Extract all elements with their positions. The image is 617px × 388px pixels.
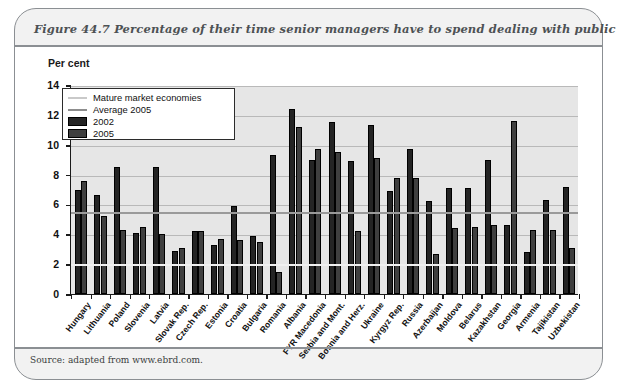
y-axis-tick-mark bbox=[66, 205, 71, 207]
x-axis-tick-mark bbox=[110, 294, 111, 299]
bar-2005 bbox=[198, 231, 204, 294]
figure-title: Figure 44.7 Percentage of their time sen… bbox=[34, 18, 594, 40]
y-axis-tick-mark bbox=[66, 85, 71, 87]
bar-2005 bbox=[355, 231, 361, 294]
y-axis-unit-label: Per cent bbox=[48, 57, 89, 69]
bar-2005 bbox=[296, 127, 302, 294]
bar-2002 bbox=[75, 190, 81, 295]
bar-2002 bbox=[172, 251, 178, 294]
x-axis-tick-mark bbox=[501, 294, 502, 299]
x-axis-tick-mark bbox=[71, 294, 72, 299]
y-axis-tick-mark bbox=[66, 234, 71, 236]
gridline bbox=[71, 235, 578, 236]
x-axis-tick-mark bbox=[423, 294, 424, 299]
bar-2002 bbox=[211, 245, 217, 294]
legend-item: Mature market economies bbox=[68, 92, 230, 104]
bar-group bbox=[465, 86, 479, 294]
bar-2002 bbox=[270, 155, 276, 294]
bar-2005 bbox=[452, 228, 458, 294]
y-axis-tick-mark bbox=[66, 145, 71, 147]
bar-group bbox=[563, 86, 577, 294]
bar-group bbox=[504, 86, 518, 294]
x-axis-tick-mark bbox=[403, 294, 404, 299]
x-axis-tick-mark bbox=[169, 294, 170, 299]
reference-line bbox=[71, 264, 578, 267]
x-axis-tick-mark bbox=[91, 294, 92, 299]
bar-group bbox=[368, 86, 382, 294]
legend-label: Mature market economies bbox=[93, 92, 201, 103]
x-axis-tick-mark bbox=[208, 294, 209, 299]
bar-2002 bbox=[387, 191, 393, 294]
figure-page: Figure 44.7 Percentage of their time sen… bbox=[0, 0, 617, 388]
bar-2002 bbox=[407, 149, 413, 294]
bar-2002 bbox=[94, 195, 100, 294]
x-axis-tick-mark bbox=[130, 294, 131, 299]
legend-swatch-icon bbox=[68, 93, 87, 102]
legend-swatch-icon bbox=[68, 105, 87, 114]
gridline bbox=[71, 176, 578, 177]
x-axis-tick-mark bbox=[227, 294, 228, 299]
x-axis-tick-mark bbox=[579, 294, 580, 299]
y-axis-tick-label: 4 bbox=[41, 228, 59, 240]
y-axis-tick-label: 0 bbox=[41, 288, 59, 300]
bar-2005 bbox=[530, 230, 536, 294]
bar-2005 bbox=[511, 121, 517, 294]
bar-2005 bbox=[81, 181, 87, 294]
bar-group bbox=[250, 86, 264, 294]
x-axis-tick-mark bbox=[520, 294, 521, 299]
bar-2002 bbox=[524, 252, 530, 294]
bar-2002 bbox=[485, 160, 491, 294]
bar-group bbox=[387, 86, 401, 294]
bar-2005 bbox=[335, 152, 341, 294]
y-axis-tick-mark bbox=[66, 175, 71, 177]
y-axis-tick-label: 14 bbox=[41, 79, 59, 91]
legend-label: 2005 bbox=[93, 128, 114, 139]
y-axis-tick-label: 10 bbox=[41, 139, 59, 151]
bar-2005 bbox=[140, 227, 146, 294]
x-axis-tick-mark bbox=[286, 294, 287, 299]
bar-group bbox=[407, 86, 421, 294]
bar-group bbox=[485, 86, 499, 294]
bar-group bbox=[289, 86, 303, 294]
bar-group bbox=[524, 86, 538, 294]
bar-2002 bbox=[426, 201, 432, 294]
bar-2005 bbox=[550, 230, 556, 294]
bar-2002 bbox=[329, 122, 335, 294]
bar-group bbox=[329, 86, 343, 294]
bar-2005 bbox=[569, 248, 575, 294]
legend-label: Average 2005 bbox=[93, 104, 151, 115]
x-axis-tick-mark bbox=[305, 294, 306, 299]
bar-2005 bbox=[101, 216, 107, 294]
x-axis-tick-mark bbox=[481, 294, 482, 299]
x-axis-tick-mark bbox=[325, 294, 326, 299]
x-axis-tick-mark bbox=[364, 294, 365, 299]
bar-2002 bbox=[231, 206, 237, 294]
gridline bbox=[71, 146, 578, 147]
bar-2005 bbox=[120, 230, 126, 294]
bar-2002 bbox=[153, 167, 159, 294]
bar-2002 bbox=[368, 125, 374, 294]
x-axis-tick-mark bbox=[442, 294, 443, 299]
bar-2002 bbox=[465, 188, 471, 294]
x-axis-tick-mark bbox=[149, 294, 150, 299]
source-note: Source: adapted from www.ebrd.com. bbox=[30, 355, 203, 365]
bar-group bbox=[309, 86, 323, 294]
bar-2005 bbox=[179, 248, 185, 294]
bar-2005 bbox=[374, 158, 380, 294]
bar-2005 bbox=[472, 227, 478, 294]
x-axis-tick-mark bbox=[345, 294, 346, 299]
legend-item: Average 2005 bbox=[68, 104, 230, 116]
bar-2002 bbox=[309, 160, 315, 294]
x-axis-tick-mark bbox=[188, 294, 189, 299]
legend-swatch-icon bbox=[68, 117, 87, 126]
footer-divider bbox=[15, 347, 602, 349]
x-axis-tick-mark bbox=[384, 294, 385, 299]
bar-2002 bbox=[446, 188, 452, 294]
y-axis-tick-label: 12 bbox=[41, 109, 59, 121]
legend-item: 2005 bbox=[68, 128, 230, 140]
x-axis-tick-mark bbox=[559, 294, 560, 299]
bar-2002 bbox=[348, 161, 354, 294]
legend-item: 2002 bbox=[68, 116, 230, 128]
bar-group bbox=[270, 86, 284, 294]
gridline bbox=[71, 86, 578, 87]
